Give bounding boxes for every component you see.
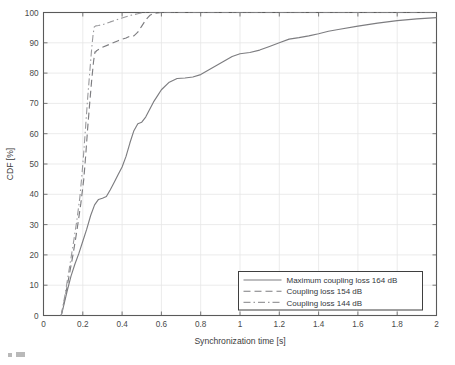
y-tick-label: 90 — [29, 39, 39, 48]
x-tick-label: 0.4 — [116, 320, 128, 329]
scan-artifact-mark — [16, 352, 25, 357]
x-tick-label: 1.2 — [274, 320, 286, 329]
x-tick-label: 0.8 — [195, 320, 207, 329]
x-tick-label: 0 — [41, 320, 46, 329]
legend-label-3: Coupling loss 144 dB — [287, 299, 363, 308]
x-tick-label: 1.6 — [352, 320, 364, 329]
x-tick-label: 1.8 — [392, 320, 404, 329]
x-axis-title: Synchronization time [s] — [194, 336, 285, 346]
x-tick-label: 1 — [238, 320, 243, 329]
legend-label-2: Coupling loss 154 dB — [287, 287, 363, 296]
y-axis-title: CDF [%] — [5, 148, 15, 180]
x-tick-labels: 00.20.40.60.811.21.41.61.82 — [41, 320, 439, 329]
x-tick-label: 0.2 — [77, 320, 89, 329]
series-line-1 — [61, 18, 436, 316]
y-tick-labels: 0102030405060708090100 — [25, 9, 39, 321]
y-tick-label: 50 — [29, 160, 39, 169]
y-tick-label: 100 — [25, 9, 39, 18]
scan-artifact-mark — [8, 353, 12, 357]
y-tick-label: 0 — [34, 312, 39, 321]
y-tick-label: 80 — [29, 69, 39, 78]
cdf-line-chart: 00.20.40.60.811.21.41.61.82 010203040506… — [0, 0, 455, 365]
y-tick-label: 40 — [29, 190, 39, 199]
gridlines — [44, 13, 437, 316]
y-tick-label: 20 — [29, 251, 39, 260]
x-tick-label: 1.4 — [313, 320, 325, 329]
legend-label-1: Maximum coupling loss 164 dB — [287, 276, 398, 285]
y-tick-label: 30 — [29, 221, 39, 230]
y-tick-label: 60 — [29, 130, 39, 139]
x-tick-label: 0.6 — [156, 320, 168, 329]
figure-container: 00.20.40.60.811.21.41.61.82 010203040506… — [0, 0, 455, 365]
y-tick-label: 10 — [29, 281, 39, 290]
legend: Maximum coupling loss 164 dBCoupling los… — [239, 272, 423, 311]
y-tick-label: 70 — [29, 99, 39, 108]
x-tick-label: 2 — [434, 320, 439, 329]
